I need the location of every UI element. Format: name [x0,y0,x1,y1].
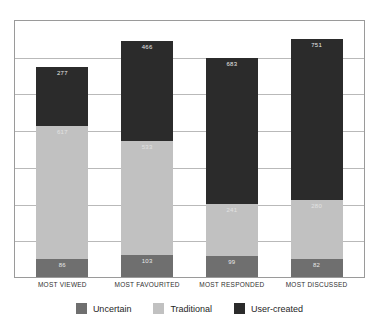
bar-segment-value-label: 82 [313,259,320,270]
bar-segment-value-label: 241 [227,204,238,215]
bar-column[interactable]: 27761786 [36,20,88,277]
bar-segment-uncertain[interactable]: 82 [291,259,343,277]
bar-segment-traditional[interactable]: 533 [121,141,173,255]
bar-segment-uncertain[interactable]: 86 [36,259,88,277]
bar-stack: 27761786 [36,67,88,277]
legend-label: User-created [251,304,303,314]
plot-area: 277617864665331036832419975128082 [14,20,365,278]
bar-stack: 75128082 [291,39,343,277]
legend-swatch-icon [76,303,87,314]
x-axis-tick-label: MOST RESPONDED [190,281,274,288]
legend-label: Uncertain [93,304,132,314]
bar-segment-uncertain[interactable]: 99 [206,256,258,277]
legend-swatch-icon [153,303,164,314]
bar-segment-user-created[interactable]: 683 [206,58,258,204]
bar-segment-value-label: 466 [142,41,153,52]
bar-segment-value-label: 86 [59,259,66,270]
bar-segment-traditional[interactable]: 280 [291,200,343,260]
x-axis-category-labels: MOST VIEWEDMOST FAVOURITEDMOST RESPONDED… [14,281,365,288]
legend-item[interactable]: User-created [234,303,303,314]
bar-segment-value-label: 99 [228,256,235,267]
x-axis-tick-label: MOST FAVOURITED [105,281,189,288]
bar-stack: 466533103 [121,41,173,277]
bar-segment-uncertain[interactable]: 103 [121,255,173,277]
bar-segment-traditional[interactable]: 617 [36,126,88,258]
legend-item[interactable]: Uncertain [76,303,132,314]
bar-segment-value-label: 277 [57,67,68,78]
bar-segment-user-created[interactable]: 751 [291,39,343,200]
bar-segment-value-label: 617 [57,126,68,137]
stacked-bar-chart: 277617864665331036832419975128082 MOST V… [0,0,379,334]
bar-segment-user-created[interactable]: 277 [36,67,88,126]
x-axis-tick-label: MOST VIEWED [20,281,104,288]
bar-column[interactable]: 68324199 [206,20,258,277]
x-axis-tick-label: MOST DISCUSSED [275,281,359,288]
bar-segment-value-label: 103 [142,255,153,266]
bar-segment-value-label: 683 [227,58,238,69]
bar-segment-traditional[interactable]: 241 [206,204,258,256]
bar-column[interactable]: 75128082 [291,20,343,277]
bar-segment-value-label: 533 [142,141,153,152]
bar-column[interactable]: 466533103 [121,20,173,277]
bar-segment-user-created[interactable]: 466 [121,41,173,141]
legend-label: Traditional [170,304,212,314]
legend-item[interactable]: Traditional [153,303,212,314]
bar-stack: 68324199 [206,58,258,277]
chart-legend: UncertainTraditionalUser-created [0,303,379,314]
bar-segment-value-label: 751 [311,39,322,50]
legend-swatch-icon [234,303,245,314]
bar-segment-value-label: 280 [311,200,322,211]
